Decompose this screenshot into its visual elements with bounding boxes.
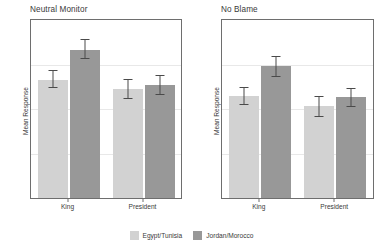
x-axis-tick-mark xyxy=(258,199,259,202)
error-bar-cap-bottom xyxy=(80,58,89,59)
error-bar-cap-top xyxy=(315,96,324,97)
figure: Neutral Monitor Mean Response 34567 King… xyxy=(0,0,383,249)
y-axis-tick-mark xyxy=(30,153,31,154)
error-bar-cap-top xyxy=(80,39,89,40)
error-bar-cap-top xyxy=(48,70,57,71)
bar xyxy=(38,80,68,198)
y-axis-tick-mark xyxy=(221,109,222,110)
panel-title: Neutral Monitor xyxy=(30,5,87,14)
bar xyxy=(261,66,291,198)
error-bar-line xyxy=(159,75,160,95)
error-bar-line xyxy=(319,96,320,117)
x-axis-tick-mark xyxy=(67,199,68,202)
panel-title: No Blame xyxy=(221,5,258,14)
x-axis-tick-label: King xyxy=(252,203,265,210)
y-axis-tick-mark xyxy=(30,198,31,199)
y-axis-tick-mark xyxy=(30,20,31,21)
panel-neutral-monitor: Neutral Monitor Mean Response 34567 King… xyxy=(0,0,191,222)
legend-swatch-icon xyxy=(130,231,139,240)
bar xyxy=(70,50,100,198)
error-bar-cap-top xyxy=(123,79,132,80)
error-bar-cap-top xyxy=(155,75,164,76)
error-bar-cap-bottom xyxy=(347,106,356,107)
bar xyxy=(145,85,175,198)
error-bar-cap-top xyxy=(271,56,280,57)
x-axis-tick-label: President xyxy=(320,203,348,210)
error-bar-line xyxy=(127,79,128,99)
y-axis-label: Mean Response xyxy=(22,87,29,135)
y-axis-tick-mark xyxy=(221,64,222,65)
error-bar-cap-bottom xyxy=(155,94,164,95)
error-bar-cap-bottom xyxy=(123,98,132,99)
x-axis-tick-label: King xyxy=(61,203,74,210)
gridline xyxy=(222,65,373,66)
plot-area: 34567 xyxy=(30,19,182,199)
error-bar-cap-top xyxy=(239,87,248,88)
bar xyxy=(113,89,143,198)
legend-item-label: Egypt/Tunisia xyxy=(143,232,183,239)
gridline xyxy=(31,65,181,66)
x-axis-tick-label: President xyxy=(129,203,157,210)
legend-swatch-icon xyxy=(193,231,202,240)
error-bar-cap-bottom xyxy=(48,87,57,88)
y-axis-label: Mean Response xyxy=(213,87,220,135)
x-axis-tick-mark xyxy=(142,199,143,202)
y-axis-tick-mark xyxy=(30,109,31,110)
error-bar-line xyxy=(84,39,85,59)
error-bar-line xyxy=(52,70,53,88)
panel-no-blame: No Blame Mean Response 23456 KingPreside… xyxy=(191,0,383,222)
y-axis-tick-mark xyxy=(221,153,222,154)
error-bar-line xyxy=(351,88,352,107)
error-bar-line xyxy=(275,56,276,77)
legend: Egypt/Tunisia Jordan/Morocco xyxy=(0,224,383,246)
plot-area: 23456 xyxy=(221,19,374,199)
error-bar-cap-bottom xyxy=(271,76,280,77)
error-bar-cap-bottom xyxy=(239,104,248,105)
y-axis-tick-mark xyxy=(30,64,31,65)
error-bar-line xyxy=(243,87,244,106)
bar xyxy=(336,97,366,198)
legend-item: Jordan/Morocco xyxy=(193,231,253,240)
bar xyxy=(304,106,334,198)
x-axis-tick-mark xyxy=(334,199,335,202)
error-bar-cap-top xyxy=(347,88,356,89)
legend-item: Egypt/Tunisia xyxy=(130,231,183,240)
y-axis-tick-mark xyxy=(221,20,222,21)
y-axis-tick-mark xyxy=(221,198,222,199)
bar xyxy=(229,96,259,198)
legend-item-label: Jordan/Morocco xyxy=(206,232,253,239)
error-bar-cap-bottom xyxy=(315,116,324,117)
